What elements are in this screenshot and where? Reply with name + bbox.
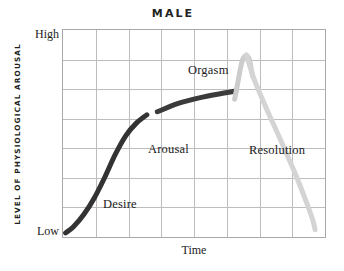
x-axis-label: Time bbox=[62, 243, 326, 258]
curve-desire bbox=[66, 115, 147, 233]
plot-area bbox=[62, 29, 326, 238]
y-axis-tick-high: High bbox=[35, 27, 59, 42]
annotation-orgasm: Orgasm bbox=[188, 63, 229, 78]
curve-arousal bbox=[157, 91, 236, 112]
annotation-arousal: Arousal bbox=[148, 142, 189, 157]
y-axis-label: LEVEL OF PHYSIOLOGICAL AROUSAL bbox=[13, 43, 22, 225]
annotation-resolution: Resolution bbox=[249, 143, 305, 158]
chart-figure: MALE LEVEL OF PHYSIOLOGICAL AROUSAL High… bbox=[0, 0, 344, 271]
y-axis-label-container: LEVEL OF PHYSIOLOGICAL AROUSAL bbox=[9, 28, 25, 240]
y-axis-tick-low: Low bbox=[37, 224, 59, 239]
annotation-desire: Desire bbox=[103, 197, 137, 212]
page-title: MALE bbox=[0, 7, 344, 20]
